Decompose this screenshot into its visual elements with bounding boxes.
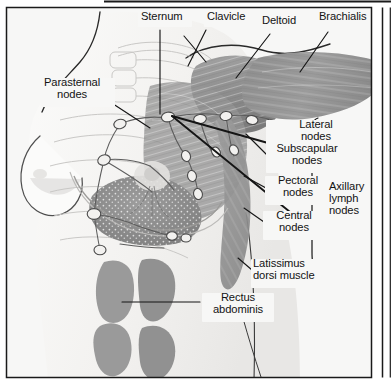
label-subscapular-nodes: Subscapularnodes — [268, 142, 346, 166]
figure-panel: Sternum Clavicle Deltoid Brachialis Para… — [0, 0, 391, 382]
label-pectoral-nodes: Pectoralnodes — [266, 174, 330, 198]
label-sternum: Sternum — [141, 10, 183, 22]
label-rectus-abdominis: Rectusabdominis — [203, 291, 273, 315]
label-latissimus-dorsi: Latissimusdorsi muscle — [253, 257, 315, 281]
label-central-nodes: Centralnodes — [264, 209, 324, 233]
label-parasternal-nodes: Parasternalnodes — [44, 76, 100, 100]
label-axillary-lymph-nodes: Axillarylymphnodes — [329, 180, 364, 217]
label-lateral-nodes: Lateralnodes — [288, 118, 344, 142]
label-brachialis: Brachialis — [319, 10, 367, 22]
label-deltoid: Deltoid — [262, 14, 296, 26]
label-clavicle: Clavicle — [207, 10, 245, 22]
